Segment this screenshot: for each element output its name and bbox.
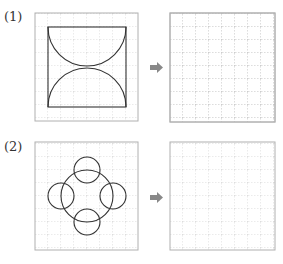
right-arrow-icon: [150, 62, 163, 73]
problem-2-source-grid: [35, 142, 138, 250]
problem-1-source-grid: [35, 13, 138, 121]
problem-2-answer-grid[interactable]: [170, 142, 275, 250]
diagram-canvas: [0, 0, 283, 264]
right-arrow-icon: [150, 192, 163, 203]
